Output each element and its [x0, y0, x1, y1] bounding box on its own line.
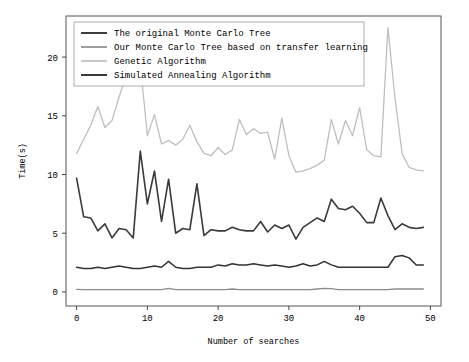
- y-tick-label: 10: [47, 171, 58, 181]
- x-tick-label: 10: [142, 314, 153, 324]
- x-tick-label: 30: [283, 314, 294, 324]
- x-tick-label: 20: [213, 314, 224, 324]
- x-tick-label: 40: [354, 314, 365, 324]
- y-tick-label: 15: [47, 112, 58, 122]
- chart-figure: 05101520 01020304050 Time(s) Number of s…: [0, 0, 469, 362]
- legend-label-3: Simulated Annealing Algorithm: [114, 71, 271, 81]
- y-tick-label: 20: [47, 54, 58, 64]
- y-tick-label: 0: [53, 288, 58, 298]
- legend-label-1: Our Monte Carlo Tree based on transfer l…: [114, 43, 368, 53]
- line-chart: 05101520 01020304050 Time(s) Number of s…: [0, 0, 469, 362]
- y-axis-title: Time(s): [18, 143, 28, 179]
- y-tick-label: 5: [53, 230, 58, 240]
- chart-legend: The original Monte Carlo TreeOur Monte C…: [74, 22, 368, 86]
- x-tick-label: 0: [74, 314, 79, 324]
- x-axis-title: Number of searches: [208, 337, 300, 347]
- legend-label-2: Genetic Algorithm: [114, 57, 206, 67]
- legend-label-0: The original Monte Carlo Tree: [114, 29, 271, 39]
- x-tick-label: 50: [425, 314, 436, 324]
